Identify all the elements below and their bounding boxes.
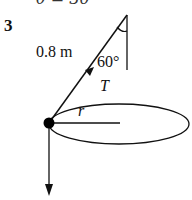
weight-arrowhead-icon <box>45 184 53 196</box>
pendulum-bob <box>44 118 55 129</box>
conical-pendulum-diagram <box>0 0 192 200</box>
tension-arrow-icon <box>85 67 94 76</box>
circular-path-ellipse <box>49 104 189 144</box>
